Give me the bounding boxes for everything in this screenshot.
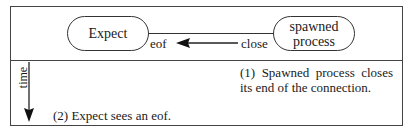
left-arrow-icon bbox=[176, 37, 238, 49]
spawned-label-line1: spawned bbox=[290, 19, 339, 34]
eof-label: eof bbox=[150, 37, 167, 51]
spawned-process-node-label: spawned process bbox=[290, 19, 339, 49]
step-2-text: (2) Expect sees an eof. bbox=[53, 108, 171, 123]
step-1-text: (1) Spawned process closes its end of th… bbox=[240, 65, 393, 95]
connection-line bbox=[148, 33, 274, 34]
section-divider bbox=[10, 60, 403, 61]
expect-node: Expect bbox=[67, 16, 149, 51]
expect-node-label: Expect bbox=[89, 26, 128, 41]
time-axis-label: time bbox=[16, 63, 31, 93]
spawned-label-line2: process bbox=[293, 34, 335, 49]
close-label: close bbox=[241, 37, 268, 51]
spawned-process-node: spawned process bbox=[273, 16, 355, 51]
